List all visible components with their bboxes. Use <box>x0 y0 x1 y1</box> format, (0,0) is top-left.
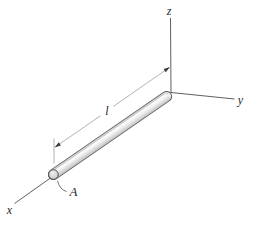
rod-axes-diagram: z y x l A <box>0 0 253 225</box>
rod-length-label: l <box>105 104 109 118</box>
dimension-arrowhead-lower <box>55 142 61 147</box>
rod-highlight <box>52 95 165 173</box>
area-leader-line <box>58 181 67 192</box>
y-axis-line <box>171 93 235 100</box>
x-axis-label: x <box>6 203 13 217</box>
z-axis-label: z <box>166 4 172 18</box>
rod-body <box>54 97 167 175</box>
cross-section-area-label: A <box>69 184 78 199</box>
rod-diagram-figure: z y x l A <box>0 0 253 225</box>
dimension-arrowhead-upper <box>164 67 170 72</box>
rod-end-cap <box>49 170 59 180</box>
y-axis-label: y <box>237 93 244 107</box>
z-axis-line <box>171 18 172 93</box>
